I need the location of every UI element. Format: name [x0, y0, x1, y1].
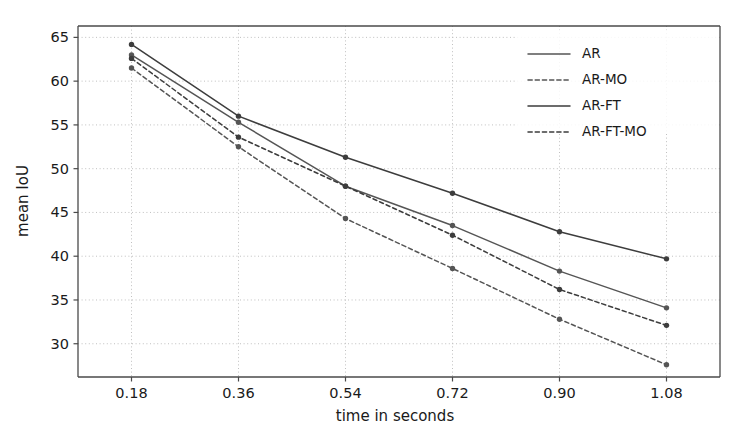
y-tick-label: 35 — [51, 292, 69, 308]
x-tick-label: 0.36 — [222, 385, 254, 401]
data-point-ar-ft-mo — [236, 134, 241, 139]
y-tick-label: 55 — [51, 117, 69, 133]
data-point-ar-mo — [236, 144, 241, 149]
x-tick-label: 0.54 — [329, 385, 361, 401]
data-point-ar-ft-mo — [664, 323, 669, 328]
data-point-ar — [664, 305, 669, 310]
data-point-ar-ft-mo — [343, 183, 348, 188]
x-tick-label: 1.08 — [650, 385, 682, 401]
data-point-ar-mo — [450, 266, 455, 271]
legend-label-ar-ft: AR-FT — [582, 97, 621, 113]
data-point-ar-mo — [343, 216, 348, 221]
data-point-ar-ft-mo — [129, 56, 134, 61]
x-tick-label: 0.90 — [543, 385, 575, 401]
y-tick-label: 60 — [51, 73, 69, 89]
chart-legend: ARAR-MOAR-FTAR-FT-MO — [517, 30, 719, 139]
data-point-ar-mo — [557, 317, 562, 322]
x-axis-label: time in seconds — [336, 407, 455, 425]
data-point-ar — [236, 120, 241, 125]
data-point-ar-ft-mo — [450, 232, 455, 237]
legend-label-ar: AR — [582, 45, 601, 61]
chart-figure: 3035404550556065 0.180.360.540.720.901.0… — [0, 0, 755, 445]
legend-label-ar-ft-mo: AR-FT-MO — [582, 123, 647, 139]
data-point-ar-ft — [129, 42, 134, 47]
data-point-ar — [450, 223, 455, 228]
y-tick-label: 65 — [51, 29, 69, 45]
data-point-ar-ft — [664, 256, 669, 261]
y-tick-label: 50 — [51, 161, 69, 177]
data-point-ar-ft-mo — [557, 287, 562, 292]
y-tick-label: 40 — [51, 248, 69, 264]
legend-label-ar-mo: AR-MO — [582, 71, 627, 87]
data-point-ar-mo — [664, 362, 669, 367]
data-point-ar-ft — [343, 155, 348, 160]
data-point-ar — [557, 268, 562, 273]
y-tick-label: 30 — [51, 336, 69, 352]
y-tick-label: 45 — [51, 204, 69, 220]
data-point-ar-ft — [450, 190, 455, 195]
y-axis-label: mean IoU — [14, 165, 32, 237]
data-point-ar-ft — [557, 229, 562, 234]
data-point-ar-ft — [236, 113, 241, 118]
x-tick-label: 0.72 — [436, 385, 468, 401]
x-tick-label: 0.18 — [115, 385, 147, 401]
data-point-ar-mo — [129, 65, 134, 70]
